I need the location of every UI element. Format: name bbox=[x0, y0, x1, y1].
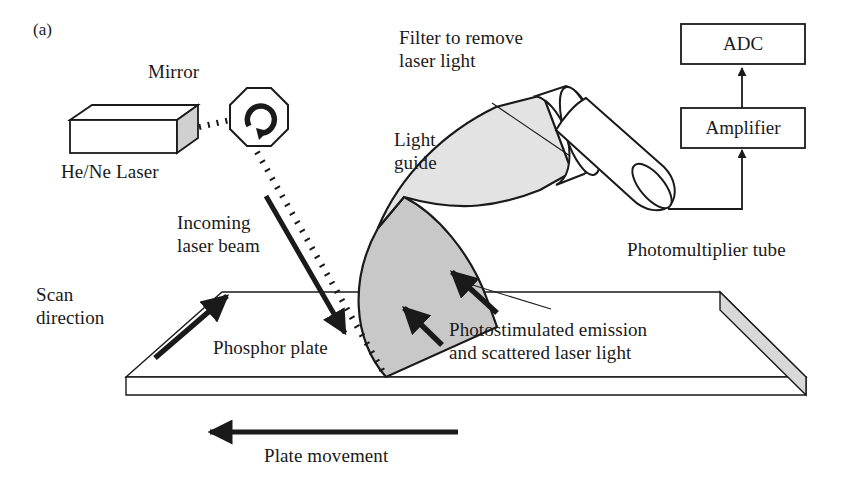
photomultiplier-tube-label: Photomultiplier tube bbox=[627, 238, 786, 261]
laser-label: He/Ne Laser bbox=[61, 160, 159, 183]
scan-direction-label-line1: Scan bbox=[36, 283, 73, 306]
scan-direction-label-line2: direction bbox=[36, 306, 104, 329]
filter-label-line2: laser light bbox=[399, 49, 476, 72]
rotating-mirror-group[interactable] bbox=[230, 88, 288, 146]
panel-letter: (a) bbox=[33, 20, 52, 40]
phosphor-plate-front-edge bbox=[126, 377, 806, 395]
incoming-beam-label-line1: Incoming bbox=[177, 211, 251, 234]
photostimulable-phosphor-reader-diagram: (a) Mirror He/Ne Laser Incoming laser be… bbox=[0, 0, 843, 481]
amplifier-box-label: Amplifier bbox=[681, 117, 805, 139]
phosphor-plate-label: Phosphor plate bbox=[213, 336, 328, 359]
pmt-to-amplifier-wire bbox=[668, 150, 742, 209]
helium-neon-laser-group bbox=[70, 105, 198, 153]
laser-front-face bbox=[70, 120, 177, 153]
light-guide-label-line1: Light bbox=[394, 128, 436, 151]
emission-label-line2: and scattered laser light bbox=[449, 341, 631, 364]
beam-laser-to-mirror-dotted bbox=[199, 120, 230, 127]
mirror-label: Mirror bbox=[148, 60, 199, 83]
emission-label-line1: Photostimulated emission bbox=[449, 318, 647, 341]
plate-movement-label: Plate movement bbox=[264, 444, 388, 467]
incoming-beam-label-line2: laser beam bbox=[177, 234, 260, 257]
adc-box-label: ADC bbox=[681, 33, 805, 55]
light-guide-label-line2: guide bbox=[394, 151, 437, 174]
filter-label-line1: Filter to remove bbox=[399, 26, 523, 49]
